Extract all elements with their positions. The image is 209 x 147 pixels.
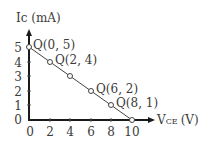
x-axis-title-sub: CE: [166, 117, 178, 126]
x-axis-title-unit: (V): [181, 113, 199, 127]
marker-4-3: [68, 74, 73, 79]
x-tick-8: 8: [107, 125, 115, 139]
x-axis-arrow-icon: [148, 117, 155, 123]
marker-10-0: [130, 118, 135, 123]
y-axis-title: Ic (mA): [16, 11, 61, 25]
y-tick-3: 3: [14, 70, 22, 84]
label-q-8-1: Q(8, 1): [116, 96, 158, 110]
label-q-2-4: Q(2, 4): [55, 53, 97, 67]
label-q-6-2: Q(6, 2): [96, 82, 138, 96]
y-tick-labels: 0 1 2 3 4 5: [14, 41, 22, 127]
x-tick-6: 6: [87, 125, 95, 139]
marker-q-6-2: [89, 89, 94, 94]
load-line-diagram: 0 1 2 3 4 5 0 2 4 6 8 10 Ic (mA) VCE(V) …: [0, 0, 209, 147]
y-tick-2: 2: [14, 85, 22, 99]
x-tick-0: 0: [26, 125, 34, 139]
y-tick-5: 5: [14, 41, 22, 55]
y-tick-1: 1: [14, 99, 22, 113]
x-tick-10: 10: [124, 125, 139, 139]
label-q-0-5: Q(0, 5): [33, 38, 75, 52]
y-axis-arrow-icon: [26, 29, 32, 36]
x-axis-title-main: V: [156, 113, 166, 127]
y-tick-0: 0: [14, 113, 22, 127]
y-tick-4: 4: [14, 56, 22, 70]
svg-text:VCE(V): VCE(V): [156, 113, 199, 127]
marker-q-2-4: [48, 60, 53, 65]
q-point-labels: Q(0, 5) Q(2, 4) Q(6, 2) Q(8, 1): [33, 38, 158, 110]
x-tick-4: 4: [66, 125, 74, 139]
x-tick-labels: 0 2 4 6 8 10: [26, 125, 139, 139]
x-axis-title: VCE(V): [156, 113, 199, 127]
x-tick-2: 2: [46, 125, 54, 139]
marker-q-8-1: [109, 103, 114, 108]
marker-q-0-5: [27, 45, 32, 50]
